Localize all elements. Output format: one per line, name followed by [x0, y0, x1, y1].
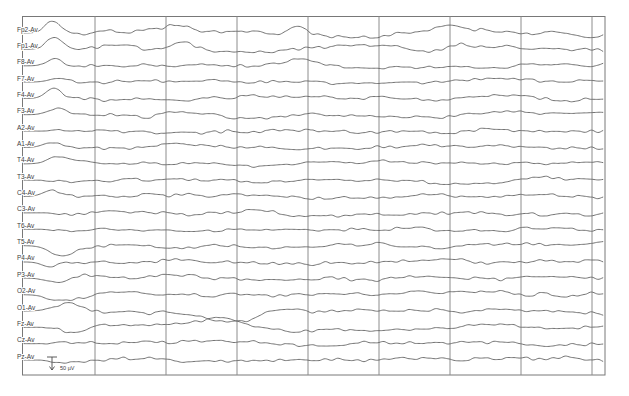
- channel-label-F4-Av: F4-Av: [17, 91, 35, 98]
- channel-label-A1-Av: A1-Av: [17, 140, 35, 147]
- channel-label-C4-Av: C4-Av: [17, 189, 36, 196]
- channel-label-O1-Av: O1-Av: [17, 304, 36, 311]
- channel-label-T5-Av: T5-Av: [17, 238, 35, 245]
- figure-background: [0, 0, 629, 396]
- channel-label-T6-Av: T6-Av: [17, 222, 35, 229]
- channel-label-Fz-Av: Fz-Av: [17, 320, 35, 327]
- channel-label-Fp2-Av: Fp2-Av: [17, 26, 39, 34]
- scale-bar-label: 50 µV: [60, 365, 75, 371]
- channel-label-F8-Av: F8-Av: [17, 58, 35, 65]
- channel-label-T4-Av: T4-Av: [17, 156, 35, 163]
- channel-label-Cz-Av: Cz-Av: [17, 336, 35, 343]
- channel-label-F3-Av: F3-Av: [17, 107, 35, 114]
- channel-label-Pz-Av: Pz-Av: [17, 353, 35, 360]
- channel-label-A2-Av: A2-Av: [17, 124, 35, 131]
- eeg-plot: Fp2-AvFp1-AvF8-AvF7-AvF4-AvF3-AvA2-AvA1-…: [0, 0, 629, 396]
- eeg-figure: Fp2-AvFp1-AvF8-AvF7-AvF4-AvF3-AvA2-AvA1-…: [0, 0, 629, 396]
- channel-label-P3-Av: P3-Av: [17, 271, 35, 278]
- channel-label-C3-Av: C3-Av: [17, 205, 36, 212]
- channel-label-O2-Av: O2-Av: [17, 287, 36, 294]
- channel-label-F7-Av: F7-Av: [17, 75, 35, 82]
- channel-label-T3-Av: T3-Av: [17, 173, 35, 180]
- channel-label-P4-Av: P4-Av: [17, 254, 35, 261]
- channel-label-Fp1-Av: Fp1-Av: [17, 42, 39, 50]
